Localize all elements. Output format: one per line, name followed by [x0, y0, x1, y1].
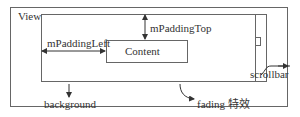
- annotation-arrows: [0, 0, 300, 117]
